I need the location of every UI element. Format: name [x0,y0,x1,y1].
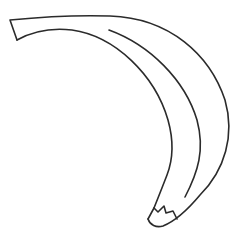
banana-tip-crack [154,206,177,219]
banana-icon [0,0,243,245]
banana-outer-outline [10,16,229,227]
banana-illustration [0,0,243,245]
banana-tip-edge [148,208,154,219]
banana-inner-outline [17,29,172,208]
banana-ridge-line [109,30,200,197]
